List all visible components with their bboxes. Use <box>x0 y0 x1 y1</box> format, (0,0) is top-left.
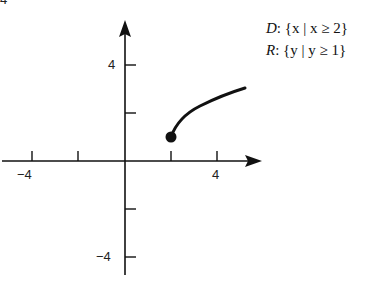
function-curve <box>171 88 245 137</box>
y-tick-label-neg4: −4 <box>96 249 111 264</box>
domain-annotation: D: {x | x ≥ 2} <box>266 18 348 38</box>
x-tick-label-4: 4 <box>212 167 219 182</box>
y-tick-label-4: 4 <box>108 57 115 72</box>
closed-endpoint <box>166 132 177 143</box>
range-annotation: R: {y | y ≥ 1} <box>266 40 346 60</box>
x-tick-label-neg4: −4 <box>17 167 32 182</box>
